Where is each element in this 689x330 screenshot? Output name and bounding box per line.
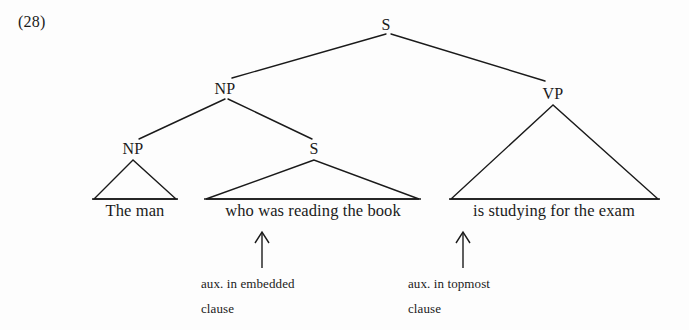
annotation-embedded-line-1: aux. in embedded — [201, 277, 295, 290]
edge-np-top-to-np-inner — [139, 99, 225, 139]
tree-edges — [139, 34, 545, 139]
triangle-relative — [206, 160, 419, 199]
triangle-the-man — [94, 160, 176, 199]
triangle-vp — [451, 105, 658, 199]
edge-s-root-to-np-top — [232, 34, 386, 78]
arrow-topmost — [456, 232, 470, 268]
syntax-tree-graphic — [0, 0, 689, 330]
terminal-the-man: The man — [106, 203, 165, 220]
arrow-embedded — [255, 232, 269, 268]
annotation-topmost-line-1: aux. in topmost — [408, 277, 490, 290]
annotation-arrows — [255, 232, 470, 268]
node-label-vp: VP — [542, 86, 563, 102]
edge-np-top-to-s-inner — [228, 99, 312, 139]
node-label-np-inner: NP — [122, 141, 143, 157]
annotation-topmost-line-2: clause — [408, 302, 441, 315]
terminal-verb-phrase: is studying for the exam — [473, 203, 635, 220]
node-label-s-inner: S — [309, 141, 318, 157]
edge-s-root-to-vp — [391, 34, 545, 81]
annotation-embedded-line-2: clause — [201, 302, 234, 315]
terminal-relative-clause: who was reading the book — [225, 203, 401, 220]
tree-triangles — [92, 105, 660, 199]
node-label-np-top: NP — [214, 81, 235, 97]
figure-canvas: (28) S NP VP NP — [0, 0, 689, 330]
node-label-s-root: S — [381, 17, 390, 33]
